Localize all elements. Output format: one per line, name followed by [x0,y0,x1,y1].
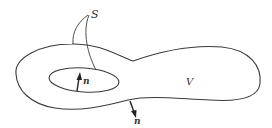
label-normal-inner: n [83,76,90,86]
leader-line-inner [86,15,96,70]
label-surface: S [91,8,99,21]
label-normal-outer: n [134,116,141,126]
label-volume: V [186,76,195,87]
volume-surface-diagram: S V n n [0,0,272,128]
normal-arrow-inner-icon [77,72,83,91]
outer-surface-boundary [16,44,260,109]
